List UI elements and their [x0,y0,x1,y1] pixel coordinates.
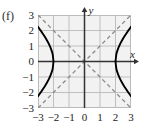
x-tick-label: 0 [77,112,93,123]
plot-canvas [38,15,131,108]
y-tick-label: −1 [18,72,34,83]
x-axis-label: x [130,49,135,60]
y-tick-label: 0 [18,56,34,67]
x-tick-label: −2 [46,112,62,123]
hyperbola-figure: (f) −3−2−10123 −3−2−10123 x y [0,0,144,134]
x-tick-label: −3 [30,112,46,123]
part-label: (f) [2,9,14,24]
x-tick-label: −1 [61,112,77,123]
y-tick-label: 3 [18,10,34,21]
x-axis-arrowhead [134,59,139,65]
y-tick-label: −2 [18,87,34,98]
y-tick-label: 1 [18,41,34,52]
x-tick-label: 2 [108,112,124,123]
y-axis-label: y [89,5,94,16]
x-tick-label: 1 [92,112,108,123]
y-axis-arrowhead [82,7,88,12]
y-tick-label: 2 [18,25,34,36]
x-tick-label: 3 [123,112,139,123]
plot-panel [38,15,131,108]
